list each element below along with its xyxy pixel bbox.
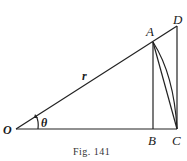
label-theta: θ: [41, 116, 48, 130]
label-O: O: [3, 123, 12, 137]
label-A: A: [145, 24, 154, 39]
chord-AC: [153, 42, 177, 129]
label-C: C: [172, 133, 181, 148]
figure-caption: Fig. 141: [73, 146, 110, 157]
label-B: B: [148, 133, 156, 148]
diagram-canvas: O A B C D r θ Fig. 141: [0, 0, 187, 161]
label-r: r: [82, 69, 87, 83]
label-D: D: [172, 12, 183, 27]
